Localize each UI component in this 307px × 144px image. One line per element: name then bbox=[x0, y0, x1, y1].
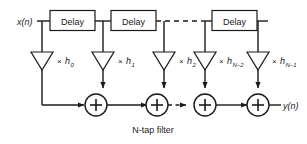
tap-2-subscript: 2 bbox=[192, 62, 197, 68]
delay-block-3: Delay bbox=[212, 11, 257, 31]
tap-2-multiply-symbol: × bbox=[179, 57, 184, 66]
diagram-canvas: x(n) Delay Delay Delay × h 0 × h 1 bbox=[0, 0, 307, 144]
adder-2 bbox=[146, 94, 168, 116]
tap-n-1-coefficient: h bbox=[280, 56, 285, 66]
adder-1 bbox=[85, 94, 107, 116]
tap-n-2-subscript: N−2 bbox=[233, 62, 245, 68]
delay-block-1-label: Delay bbox=[61, 17, 85, 27]
tap-2-coefficient: h bbox=[187, 56, 192, 66]
tap-1-multiply-symbol: × bbox=[118, 57, 123, 66]
output-label: y(n) bbox=[282, 101, 299, 111]
delay-block-1: Delay bbox=[50, 11, 95, 31]
adder-4 bbox=[247, 94, 269, 116]
tap-n-2-coefficient: h bbox=[227, 56, 232, 66]
adder-3 bbox=[194, 94, 216, 116]
fir-filter-diagram: x(n) Delay Delay Delay × h 0 × h 1 bbox=[0, 0, 307, 144]
delay-block-2-label: Delay bbox=[122, 17, 146, 27]
tap-n-1-multiply-symbol: × bbox=[272, 57, 277, 66]
delay-block-3-label: Delay bbox=[223, 17, 247, 27]
tap-1-coefficient: h bbox=[126, 56, 131, 66]
figure-caption: N-tap filter bbox=[132, 125, 174, 135]
input-label: x(n) bbox=[16, 17, 33, 27]
tap-0-multiply-symbol: × bbox=[57, 57, 62, 66]
delay-block-2: Delay bbox=[111, 11, 156, 31]
tap-n-1-subscript: N−1 bbox=[286, 62, 297, 68]
tap-1-subscript: 1 bbox=[132, 62, 135, 68]
tap-n-2-multiply-symbol: × bbox=[219, 57, 224, 66]
tap-0-coefficient: h bbox=[65, 56, 70, 66]
